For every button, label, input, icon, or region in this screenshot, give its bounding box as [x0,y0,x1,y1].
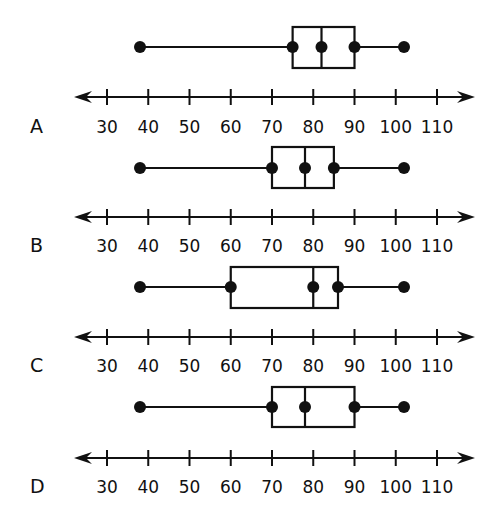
tick-label: 40 [137,356,159,376]
tick-label: 30 [96,117,118,137]
number-line-a: 30405060708090100110 [74,89,475,137]
median-point [316,41,328,53]
box-plot-a: 30405060708090100110A [30,27,475,137]
tick-label: 100 [380,356,412,376]
number-line-b: 30405060708090100110 [74,209,475,256]
q3-point [349,41,361,53]
tick-label: 50 [179,117,201,137]
iqr-box [272,387,355,427]
tick-label: 80 [302,236,324,256]
tick-label: 30 [96,356,118,376]
min-point [134,401,146,413]
tick-label: 40 [137,477,159,497]
option-label-d: D [30,475,45,497]
tick-label: 80 [302,117,324,137]
min-point [134,281,146,293]
box-plot-d: 30405060708090100110D [30,387,475,497]
option-label-a: A [30,115,43,137]
q3-point [349,401,361,413]
option-label-c: C [30,354,43,376]
min-point [134,41,146,53]
max-point [398,41,410,53]
box-plot-options: 30405060708090100110A3040506070809010011… [0,0,497,522]
tick-label: 110 [421,117,453,137]
tick-label: 60 [220,236,242,256]
tick-label: 80 [302,477,324,497]
min-point [134,162,146,174]
number-line-d: 30405060708090100110 [74,450,475,497]
tick-label: 90 [344,117,366,137]
option-label-b: B [30,234,43,256]
tick-label: 30 [96,477,118,497]
tick-label: 100 [380,117,412,137]
tick-label: 60 [220,477,242,497]
tick-label: 40 [137,236,159,256]
tick-label: 70 [261,356,283,376]
max-point [398,401,410,413]
tick-label: 100 [380,236,412,256]
tick-label: 30 [96,236,118,256]
median-point [307,281,319,293]
tick-label: 50 [179,356,201,376]
tick-label: 90 [344,236,366,256]
median-point [299,401,311,413]
tick-label: 100 [380,477,412,497]
q1-point [287,41,299,53]
tick-label: 70 [261,477,283,497]
box-plot-b: 30405060708090100110B [30,147,475,256]
tick-label: 50 [179,477,201,497]
tick-label: 70 [261,236,283,256]
number-line-c: 30405060708090100110 [74,329,475,376]
tick-label: 70 [261,117,283,137]
iqr-box [231,267,338,308]
q3-point [332,281,344,293]
q1-point [266,162,278,174]
tick-label: 110 [421,356,453,376]
tick-label: 40 [137,117,159,137]
box-plot-c: 30405060708090100110C [30,267,475,376]
tick-label: 90 [344,477,366,497]
q3-point [328,162,340,174]
max-point [398,281,410,293]
q1-point [225,281,237,293]
max-point [398,162,410,174]
tick-label: 60 [220,356,242,376]
tick-label: 110 [421,477,453,497]
tick-label: 60 [220,117,242,137]
q1-point [266,401,278,413]
median-point [299,162,311,174]
tick-label: 110 [421,236,453,256]
tick-label: 90 [344,356,366,376]
tick-label: 80 [302,356,324,376]
tick-label: 50 [179,236,201,256]
